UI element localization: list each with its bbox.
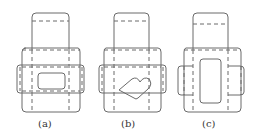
main-panel-b — [104, 48, 161, 112]
caption-b: (b) — [121, 118, 135, 129]
figure-b: (b) — [99, 13, 166, 129]
top-flap-b — [114, 13, 149, 50]
box-dielines-diagram: (a) (b) (c) — [0, 0, 259, 137]
figure-c: (c) — [178, 13, 244, 129]
top-flap-a — [32, 13, 69, 50]
window-a — [38, 73, 65, 89]
figure-a: (a) — [17, 13, 84, 129]
main-panel-a — [22, 48, 80, 112]
heart-window-b — [119, 78, 151, 99]
left-tab-c — [178, 66, 193, 95]
right-tab-c — [228, 66, 244, 95]
top-flap-c — [193, 13, 228, 50]
caption-a: (a) — [38, 118, 52, 129]
caption-c: (c) — [202, 118, 216, 129]
window-c — [200, 59, 221, 103]
